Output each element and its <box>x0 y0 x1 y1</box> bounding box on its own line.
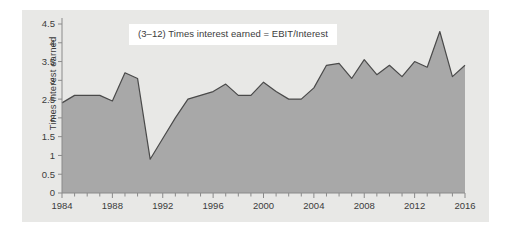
y-tick-label: 4.5 <box>42 18 55 29</box>
x-tick-label: 1988 <box>102 200 123 211</box>
x-tick-label: 1984 <box>51 200 72 211</box>
x-tick-label: 2016 <box>454 200 475 211</box>
y-tick-label: 0.5 <box>42 169 55 180</box>
y-tick-label: 3 <box>50 75 55 86</box>
y-tick-label: 4 <box>50 37 55 48</box>
x-tick-label: 2004 <box>303 200 324 211</box>
y-tick-label: 2.5 <box>42 94 55 105</box>
x-tick-label: 1992 <box>152 200 173 211</box>
x-tick-label: 2012 <box>404 200 425 211</box>
chart-figure: Times interest earned 00.511.522.533.544… <box>0 0 511 233</box>
y-tick-label: 0 <box>50 187 55 198</box>
y-tick-label: 2 <box>50 112 55 123</box>
y-tick-label: 1.5 <box>42 131 55 142</box>
y-tick-label: 1 <box>50 150 55 161</box>
chart-title-box: (3–12) Times interest earned = EBIT/Inte… <box>129 24 337 45</box>
x-tick-label: 2008 <box>354 200 375 211</box>
area-fill <box>62 32 465 193</box>
y-tick-label: 3.5 <box>42 56 55 67</box>
x-tick-label: 2000 <box>253 200 274 211</box>
x-tick-label: 1996 <box>203 200 224 211</box>
